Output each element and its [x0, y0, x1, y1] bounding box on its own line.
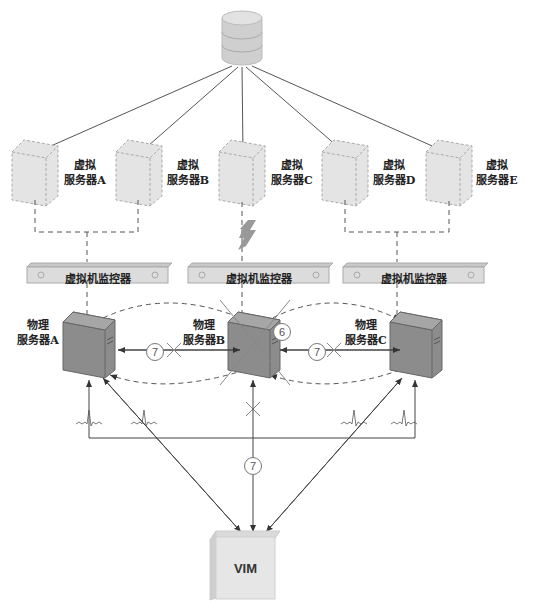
physical-server-a-line1: 物理 — [14, 318, 62, 333]
virtual-server-b-line1: 虚拟 — [166, 158, 210, 173]
virtual-server-e-line1: 虚拟 — [475, 158, 519, 173]
physical-server-b-line2: 服务器B — [180, 333, 228, 348]
virtual-server-a-icon — [12, 140, 58, 206]
virtual-server-e-icon — [426, 140, 472, 206]
vim-links — [89, 378, 415, 532]
physical-server-a-line2: 服务器A — [14, 333, 62, 348]
virtual-server-c-line1: 虚拟 — [270, 158, 314, 173]
vm-hypervisor-links — [35, 200, 449, 315]
virtual-server-c-label: 虚拟 服务器C — [270, 158, 314, 188]
hypervisor-a-label: 虚拟机监控器 — [27, 270, 168, 286]
virtual-server-d-line2: 服务器D — [372, 173, 416, 188]
virtual-server-d-label: 虚拟 服务器D — [372, 158, 416, 188]
lightning-icon — [238, 220, 256, 250]
physical-server-a-icon — [63, 312, 115, 378]
virtual-server-a-line1: 虚拟 — [63, 158, 107, 173]
physical-server-c-icon — [390, 312, 442, 378]
virtual-server-e-line2: 服务器E — [475, 173, 519, 188]
virtual-server-d-icon — [322, 140, 368, 206]
vim-label: VIM — [216, 561, 275, 576]
virtual-server-b-label: 虚拟 服务器B — [166, 158, 210, 188]
step-6-marker: 6 — [273, 323, 291, 341]
virtual-server-d-line1: 虚拟 — [372, 158, 416, 173]
virtual-server-a-label: 虚拟 服务器A — [63, 158, 107, 188]
heartbeat-wave-icons — [76, 410, 417, 426]
step-7-vim-marker: 7 — [244, 457, 262, 475]
diagram-canvas — [0, 0, 547, 608]
step-7-right-marker: 7 — [308, 343, 326, 361]
physical-server-b-line1: 物理 — [180, 318, 228, 333]
virtual-server-a-line2: 服务器A — [63, 173, 107, 188]
virtual-server-c-line2: 服务器C — [270, 173, 314, 188]
physical-server-c-label: 物理 服务器C — [342, 318, 390, 348]
hypervisor-c-label: 虚拟机监控器 — [343, 270, 484, 286]
virtual-server-e-label: 虚拟 服务器E — [475, 158, 519, 188]
hypervisor-b-label: 虚拟机监控器 — [188, 270, 329, 286]
physical-server-c-line2: 服务器C — [342, 333, 390, 348]
virtual-server-b-line2: 服务器B — [166, 173, 210, 188]
database-icon — [222, 11, 262, 65]
virtual-server-c-icon — [219, 140, 265, 206]
storage-links — [35, 66, 448, 153]
step-7-left-marker: 7 — [146, 343, 164, 361]
physical-server-b-label: 物理 服务器B — [180, 318, 228, 348]
physical-server-a-label: 物理 服务器A — [14, 318, 62, 348]
virtual-server-b-icon — [116, 140, 162, 206]
physical-server-c-line1: 物理 — [342, 318, 390, 333]
